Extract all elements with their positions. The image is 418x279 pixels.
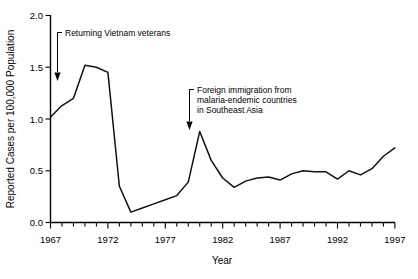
- x-tick-label-6: 1997: [384, 234, 405, 245]
- y-tick-label-3: 1.5: [30, 62, 43, 73]
- y-tick-label-2: 1.0: [30, 114, 43, 125]
- annot-immigration-label-line-3: in Southeast Asia: [197, 105, 263, 115]
- y-tick-label-1: 0.5: [30, 165, 43, 176]
- y-tick-label-0: 0.0: [30, 217, 43, 228]
- y-tick-label-4: 2.0: [30, 10, 43, 21]
- x-tick-label-2: 1977: [155, 234, 176, 245]
- x-tick-label-1: 1972: [97, 234, 118, 245]
- annot-immigration-label-line-2: malaria-endemic countries: [197, 95, 297, 105]
- y-axis-title: Reported Cases per 100,000 Population: [5, 30, 16, 208]
- annot-vietnam-label: Returning Vietnam veterans: [65, 28, 170, 38]
- chart-background: [0, 0, 418, 279]
- annot-immigration-label-line-1: Foreign immigration from: [197, 85, 291, 95]
- malaria-cases-line-chart: 0.0 0.5 1.0 1.5 2.0 Reported Cases per 1…: [0, 0, 418, 279]
- x-tick-label-5: 1992: [327, 234, 348, 245]
- x-tick-label-4: 1987: [270, 234, 291, 245]
- x-tick-label-0: 1967: [40, 234, 61, 245]
- x-tick-label-3: 1982: [212, 234, 233, 245]
- x-axis-title: Year: [212, 255, 233, 266]
